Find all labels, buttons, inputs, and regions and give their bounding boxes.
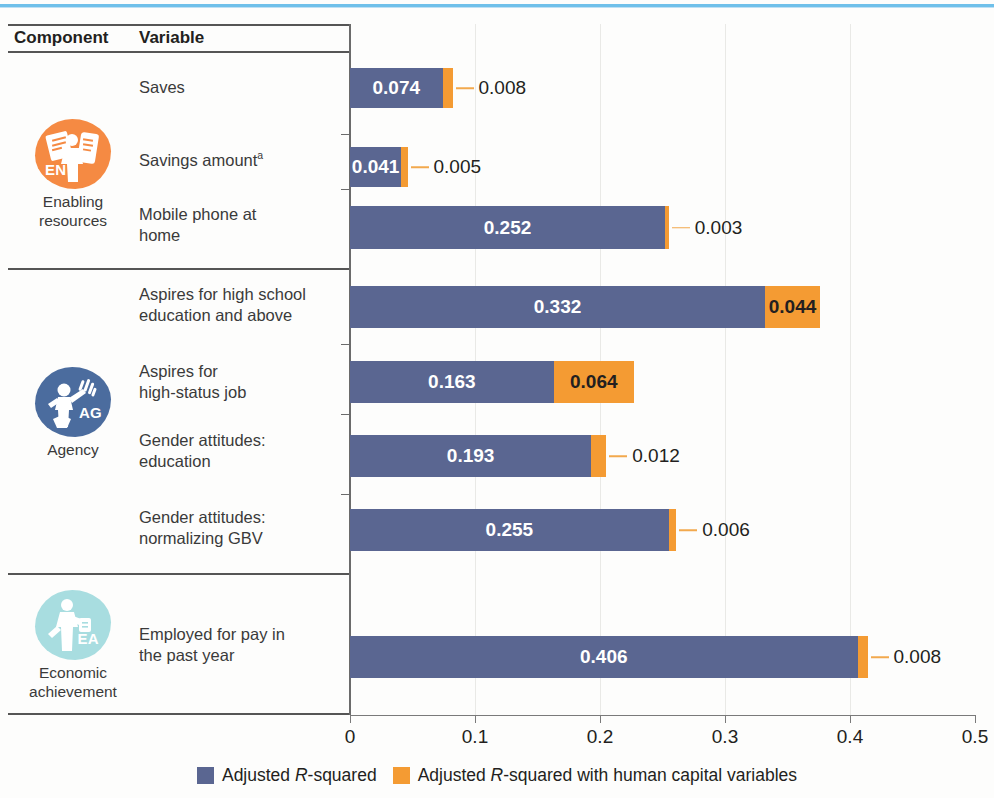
bar-value-label-blue: 0.252 [484, 217, 532, 239]
group-label-economic-achievement-line2: achievement [12, 682, 134, 701]
group-label-enabling-resources-line1: Enabling [12, 192, 134, 211]
xticklabel-0.5: 0.5 [962, 726, 988, 748]
group-label-economic-achievement-line1: Economic [12, 663, 134, 682]
xtick-0.3 [725, 715, 726, 723]
bar-value-label-blue: 0.163 [428, 371, 476, 393]
gridline-0.4 [850, 24, 851, 715]
xtick-0.5 [975, 715, 976, 723]
bar-segment-human-capital[interactable] [669, 509, 677, 551]
bar-value-label-orange: 0.064 [570, 371, 618, 393]
legend-swatch-orange [393, 767, 410, 784]
top-decorative-rule-secondary [0, 7, 994, 8]
legend-swatch-blue [197, 767, 214, 784]
xtick-0.4 [850, 715, 851, 723]
legend-label-adjusted-r-squared: Adjusted R-squared [222, 765, 377, 786]
bar-row-aspires-high-school[interactable]: 0.3320.044 [350, 286, 820, 328]
group-label-agency-line1: Agency [12, 440, 134, 459]
value-leader-line [871, 656, 889, 658]
x-axis-line [350, 715, 976, 716]
group-cell-economic-achievement: EA Economic achievement [12, 590, 134, 701]
variable-label-gender-attitudes-education: Gender attitudes: education [139, 425, 347, 472]
plot-area: 0 0.1 0.2 0.3 0.4 0.5 0.0740.008 0.0410.… [350, 24, 976, 715]
table-header-row: Component Variable [8, 24, 350, 51]
chart-legend: Adjusted R-squared Adjusted R-squared wi… [0, 765, 994, 786]
variable-table: Component Variable [8, 24, 350, 715]
enabling-resources-icon: EN [35, 119, 111, 189]
group-cell-enabling-resources: EN Enabling resources [12, 119, 134, 230]
bar-value-label-blue: 0.255 [486, 519, 534, 541]
variable-label-employed-for-pay: Employed for pay in the past year [139, 619, 347, 666]
bar-value-label-orange: 0.044 [769, 296, 817, 318]
value-leader-line [679, 529, 697, 531]
bar-row-savings-amount[interactable]: 0.0410.005 [350, 147, 408, 187]
group-divider-1 [8, 268, 350, 270]
variable-label-saves: Saves [139, 72, 347, 98]
bar-value-label-orange: 0.008 [894, 646, 942, 668]
xticklabel-0.1: 0.1 [462, 726, 488, 748]
gridline-0.3 [725, 24, 726, 715]
economic-achievement-code: EA [78, 630, 99, 647]
value-leader-line [609, 455, 627, 457]
bar-value-label-orange: 0.005 [434, 156, 482, 178]
row-tick-1 [341, 134, 350, 135]
value-leader-line [411, 166, 429, 168]
group-cell-agency: AG Agency [12, 367, 134, 459]
group-label-enabling-resources-line2: resources [12, 211, 134, 230]
header-variable: Variable [139, 28, 204, 48]
bar-row-gender-attitudes-gbv[interactable]: 0.2550.006 [350, 509, 676, 551]
agency-icon: AG [35, 367, 111, 437]
row-tick-3 [341, 344, 350, 345]
bar-value-label-blue: 0.332 [534, 296, 582, 318]
bar-value-label-orange: 0.003 [695, 217, 743, 239]
bar-value-label-orange: 0.008 [479, 77, 527, 99]
row-tick-2 [341, 189, 350, 190]
variable-label-aspires-high-status-job: Aspires for high-status job [139, 356, 347, 403]
bar-value-label-blue: 0.406 [580, 646, 628, 668]
bar-segment-human-capital[interactable] [443, 68, 453, 108]
value-leader-line [672, 227, 690, 229]
enabling-resources-code: EN [45, 161, 66, 178]
bar-segment-human-capital[interactable] [591, 435, 606, 477]
xticklabel-0.3: 0.3 [712, 726, 738, 748]
agency-code: AG [79, 404, 102, 421]
legend-item-adjusted-r-squared[interactable]: Adjusted R-squared [197, 765, 377, 786]
bar-row-mobile-phone[interactable]: 0.2520.003 [350, 206, 669, 249]
bar-value-label-blue: 0.074 [372, 77, 420, 99]
xticklabel-0.4: 0.4 [837, 726, 863, 748]
bar-row-employed-for-pay[interactable]: 0.4060.008 [350, 636, 868, 678]
xticklabel-0: 0 [345, 726, 356, 748]
bar-segment-human-capital[interactable] [858, 636, 868, 678]
table-bottom-border [8, 713, 350, 715]
variable-label-gender-attitudes-gbv: Gender attitudes: normalizing GBV [139, 502, 347, 549]
bar-row-saves[interactable]: 0.0740.008 [350, 68, 453, 108]
bar-row-gender-attitudes-education[interactable]: 0.1930.012 [350, 435, 606, 477]
bar-segment-human-capital[interactable] [401, 147, 407, 187]
bar-value-label-orange: 0.006 [702, 519, 750, 541]
bar-value-label-blue: 0.193 [447, 445, 495, 467]
bar-segment-human-capital[interactable] [665, 206, 669, 249]
variable-label-aspires-high-school: Aspires for high school education and ab… [139, 279, 347, 326]
header-component: Component [14, 28, 108, 48]
row-tick-4 [341, 414, 350, 415]
bar-row-aspires-high-status-job[interactable]: 0.1630.064 [350, 361, 634, 403]
variable-label-mobile-phone: Mobile phone at home [139, 199, 347, 246]
economic-achievement-icon: EA [35, 590, 111, 660]
xtick-0.2 [600, 715, 601, 723]
figure-stacked-bar-chart: Component Variable [0, 0, 994, 798]
xticklabel-0.2: 0.2 [587, 726, 613, 748]
value-leader-line [456, 87, 474, 89]
bar-value-label-orange: 0.012 [632, 445, 680, 467]
xtick-0 [350, 715, 351, 723]
row-tick-5 [341, 494, 350, 495]
xtick-0.1 [475, 715, 476, 723]
table-header-border [8, 51, 350, 53]
group-divider-2 [8, 573, 350, 575]
legend-label-adjusted-r-squared-human-capital: Adjusted R-squared with human capital va… [418, 765, 797, 786]
variable-label-savings-amount: Savings amounta [139, 145, 347, 171]
legend-item-adjusted-r-squared-human-capital[interactable]: Adjusted R-squared with human capital va… [393, 765, 797, 786]
bar-value-label-blue: 0.041 [352, 156, 400, 178]
